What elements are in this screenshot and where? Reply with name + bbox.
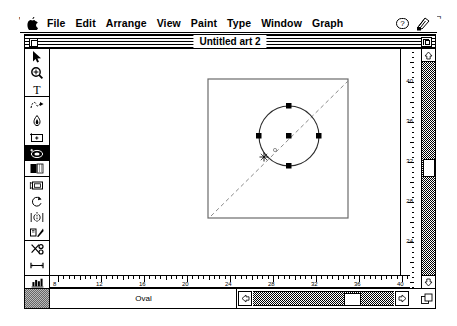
vruler-label-32: 32 bbox=[406, 158, 413, 164]
oval-tool[interactable] bbox=[25, 145, 49, 161]
hruler-tick bbox=[85, 276, 86, 279]
vruler-tick bbox=[412, 192, 415, 193]
pattern-tool[interactable] bbox=[25, 161, 49, 177]
hruler-tick bbox=[219, 276, 220, 279]
horizontal-scroll-track[interactable] bbox=[253, 291, 394, 306]
menu-item-graph[interactable]: Graph bbox=[307, 15, 348, 32]
vruler-tick bbox=[412, 217, 415, 218]
zoom-box[interactable] bbox=[421, 37, 432, 47]
vertical-ruler: 40 36 32 28 24 bbox=[400, 49, 414, 288]
hruler-tick bbox=[74, 276, 75, 279]
menu-item-arrange[interactable]: Arrange bbox=[101, 15, 152, 32]
vruler-label-36: 36 bbox=[406, 118, 413, 124]
handle-top[interactable] bbox=[286, 103, 292, 109]
zoom-tool[interactable] bbox=[25, 65, 49, 81]
close-box[interactable] bbox=[29, 38, 38, 47]
window-resize-grip[interactable] bbox=[419, 290, 435, 307]
window-body: T bbox=[25, 49, 435, 308]
vertical-scrollbar[interactable] bbox=[421, 49, 435, 288]
reflect-tool[interactable] bbox=[25, 209, 49, 225]
horizontal-scroll-thumb[interactable] bbox=[344, 293, 361, 306]
hruler-tick bbox=[397, 276, 398, 279]
rectangle-tool[interactable] bbox=[25, 129, 49, 145]
hruler-tick bbox=[332, 276, 333, 279]
hruler-tick bbox=[176, 276, 177, 279]
guide-midpoint-marker bbox=[273, 148, 276, 151]
eyedropper-tool[interactable] bbox=[25, 113, 49, 129]
vruler-tick bbox=[412, 67, 415, 68]
frame-tool[interactable] bbox=[25, 177, 49, 193]
vruler-tick bbox=[412, 57, 415, 58]
text-tool[interactable]: T bbox=[25, 81, 49, 97]
rotate-tool[interactable] bbox=[25, 193, 49, 209]
menu-item-file[interactable]: File bbox=[42, 15, 71, 32]
hruler-tick bbox=[171, 276, 172, 279]
hruler-tick bbox=[58, 276, 59, 282]
document-window: Untitled art 2 bbox=[24, 34, 436, 309]
hruler-tick bbox=[182, 276, 183, 279]
horizontal-scrollbar[interactable] bbox=[238, 289, 409, 308]
window-title-bar[interactable]: Untitled art 2 bbox=[25, 35, 435, 49]
vruler-tick bbox=[410, 142, 414, 143]
canvas-artwork[interactable] bbox=[50, 49, 410, 288]
menu-item-type[interactable]: Type bbox=[222, 15, 256, 32]
ruler-origin-cell[interactable] bbox=[25, 275, 50, 288]
vruler-tick bbox=[412, 77, 415, 78]
hruler-tick bbox=[273, 276, 274, 282]
menu-item-view[interactable]: View bbox=[152, 15, 186, 32]
measure-tool[interactable] bbox=[25, 257, 49, 273]
vruler-tick bbox=[412, 72, 415, 73]
scroll-left-button[interactable] bbox=[238, 291, 252, 306]
vruler-tick bbox=[410, 222, 414, 223]
screenshot-root: ⌐ ¬ File Edit Arrange View Paint Type Wi… bbox=[0, 0, 457, 326]
vruler-tick bbox=[412, 92, 415, 93]
vruler-tick bbox=[412, 97, 415, 98]
vruler-tick bbox=[412, 152, 415, 153]
hruler-tick bbox=[80, 276, 81, 280]
hruler-tick bbox=[96, 276, 97, 279]
application-icon[interactable] bbox=[416, 16, 431, 31]
hruler-tick bbox=[139, 276, 140, 279]
vruler-tick bbox=[408, 82, 414, 83]
handle-bottom[interactable] bbox=[286, 163, 292, 169]
hruler-tick bbox=[359, 276, 360, 282]
handle-right[interactable] bbox=[316, 133, 322, 139]
hruler-tick bbox=[257, 276, 258, 279]
handle-center[interactable] bbox=[286, 133, 292, 139]
vruler-tick bbox=[410, 102, 414, 103]
menu-item-window[interactable]: Window bbox=[256, 15, 307, 32]
hruler-tick bbox=[160, 276, 161, 279]
hruler-label-32: 32 bbox=[311, 281, 318, 288]
scroll-down-button[interactable] bbox=[422, 275, 435, 288]
shear-tool[interactable] bbox=[25, 225, 49, 241]
scissors-tool[interactable] bbox=[25, 241, 49, 257]
drawing-canvas[interactable] bbox=[50, 49, 410, 288]
hruler-tick bbox=[117, 276, 118, 279]
hruler-tick bbox=[327, 276, 328, 279]
hruler-tick bbox=[407, 276, 408, 279]
scroll-up-button[interactable] bbox=[422, 49, 435, 62]
status-bar: Oval bbox=[25, 288, 435, 308]
artboard-rect bbox=[208, 79, 348, 218]
horizontal-ruler: 8 12 16 20 24 28 32 36 40 44 bbox=[50, 275, 410, 288]
freehand-tool[interactable] bbox=[25, 97, 49, 113]
hruler-tick bbox=[391, 276, 392, 279]
hruler-tick bbox=[354, 276, 355, 279]
help-icon[interactable]: ? bbox=[395, 16, 410, 31]
desktop: File Edit Arrange View Paint Type Window… bbox=[20, 14, 437, 309]
hruler-label-12: 12 bbox=[96, 281, 103, 288]
hruler-tick bbox=[343, 276, 344, 279]
vruler-tick bbox=[412, 207, 415, 208]
handle-left[interactable] bbox=[256, 133, 262, 139]
hruler-tick bbox=[241, 276, 242, 279]
menu-item-paint[interactable]: Paint bbox=[186, 15, 222, 32]
pointer-tool[interactable] bbox=[25, 49, 49, 65]
vertical-scroll-thumb[interactable] bbox=[423, 159, 435, 177]
hruler-tick bbox=[69, 276, 70, 279]
menu-item-edit[interactable]: Edit bbox=[71, 15, 101, 32]
vruler-tick bbox=[412, 197, 415, 198]
vruler-tick bbox=[412, 247, 415, 248]
hruler-tick bbox=[166, 276, 167, 280]
apple-icon[interactable] bbox=[27, 17, 38, 30]
scroll-right-button[interactable] bbox=[395, 291, 409, 306]
